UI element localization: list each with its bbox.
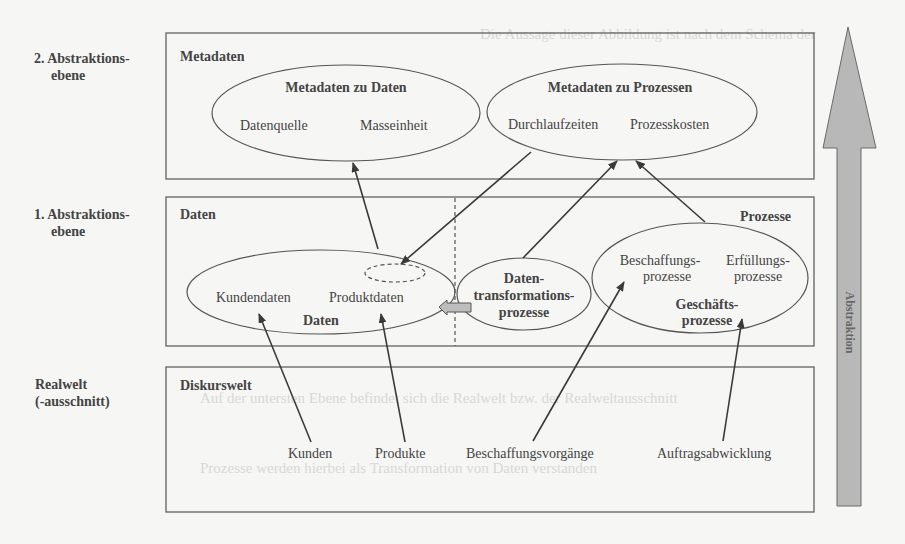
realwelt-label: Realwelt (-ausschnitt) bbox=[35, 376, 110, 410]
beschaffungsprozesse-label: Beschaffungs- prozesse bbox=[610, 253, 710, 285]
datenquelle-label: Datenquelle bbox=[240, 118, 308, 134]
datentransformation-label: Daten- transformations- prozesse bbox=[459, 270, 589, 321]
prozesskosten-label: Prozesskosten bbox=[630, 117, 709, 133]
geschaeftsprozesse-title: Geschäfts- prozesse bbox=[662, 297, 752, 329]
kundendaten-label: Kundendaten bbox=[216, 290, 291, 306]
auftragsabwicklung-label: Auftragsabwicklung bbox=[657, 446, 771, 462]
abstraktion-label: Abstraktion bbox=[842, 288, 857, 358]
arrow-metaprozesse-to-produktdaten bbox=[401, 152, 531, 264]
abstraction-arrow-icon bbox=[823, 27, 876, 506]
beschaffungsvorgaenge-label: Beschaffungsvorgänge bbox=[466, 446, 594, 462]
arrow-daten-to-metadaten bbox=[353, 163, 378, 249]
ellipse-produktdaten-dashed bbox=[365, 264, 425, 282]
metadaten-box-title: Metadaten bbox=[180, 48, 245, 65]
arrow-produkte-to-produktdaten bbox=[381, 314, 405, 442]
metadaten-zu-prozessen-title: Metadaten zu Prozessen bbox=[530, 80, 710, 96]
masseinheit-label: Masseinheit bbox=[360, 118, 428, 134]
daten-box-title: Daten bbox=[180, 206, 216, 223]
arrow-geschaeft-to-metaprozesse bbox=[636, 161, 705, 222]
kunden-label: Kunden bbox=[288, 446, 332, 462]
level-1-label: 1. Abstraktions- ebene bbox=[34, 206, 130, 240]
daten-ellipse-title: Daten bbox=[303, 313, 339, 329]
metadaten-zu-daten-title: Metadaten zu Daten bbox=[276, 80, 416, 96]
produktdaten-label: Produktdaten bbox=[329, 290, 404, 306]
diskurswelt-box bbox=[166, 367, 814, 512]
durchlaufzeiten-label: Durchlaufzeiten bbox=[508, 117, 598, 133]
metadaten-box bbox=[166, 33, 814, 179]
level-2-label: 2. Abstraktions- ebene bbox=[34, 50, 130, 84]
arrow-auftrag-to-erfuellungsprozesse bbox=[723, 319, 742, 441]
diskurswelt-box-title: Diskurswelt bbox=[180, 377, 252, 394]
arrow-transformation-to-metaprozesse bbox=[523, 161, 617, 258]
produkte-label: Produkte bbox=[375, 446, 426, 462]
ellipse-metadaten-zu-prozessen bbox=[487, 64, 757, 160]
prozesse-box-title: Prozesse bbox=[740, 208, 791, 225]
erfuellungsprozesse-label: Erfüllungs- prozesse bbox=[714, 253, 802, 285]
